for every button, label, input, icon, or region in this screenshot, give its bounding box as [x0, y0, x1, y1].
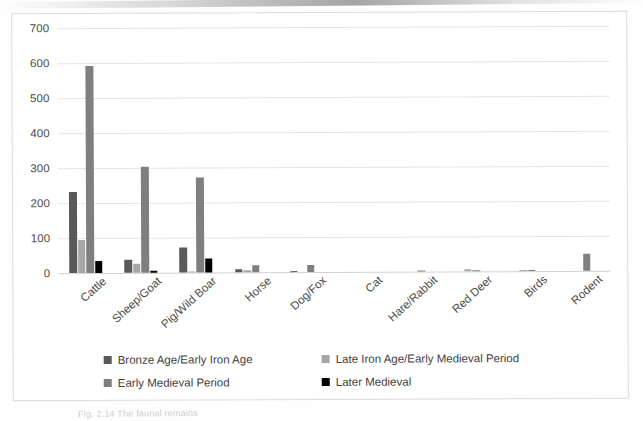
bar	[473, 270, 481, 271]
y-tick-label-100: 100	[31, 232, 51, 244]
bar	[95, 261, 103, 273]
x-axis-label-text: Red Deer	[450, 273, 495, 315]
bar	[69, 192, 77, 273]
bar	[188, 271, 196, 272]
bar	[307, 265, 315, 272]
bar	[235, 269, 243, 273]
bar	[290, 271, 298, 272]
y-tick-label-500: 500	[30, 92, 50, 104]
scan-edge-shadow	[0, 0, 643, 9]
y-tick-label-700: 700	[30, 22, 50, 34]
x-axis-label: Rodent	[569, 273, 605, 307]
chart-legend: Bronze Age/Early Iron AgeLate Iron Age/E…	[104, 352, 564, 400]
bar	[243, 271, 251, 273]
x-axis-label: Cattle	[78, 275, 108, 304]
bar	[196, 177, 204, 272]
x-axis-label-text: Cattle	[78, 275, 108, 304]
legend-item[interactable]: Early Medieval Period	[104, 376, 230, 389]
legend-label: Early Medieval Period	[118, 376, 230, 388]
legend-swatch-icon	[322, 355, 330, 363]
bar-group	[278, 27, 334, 272]
x-axis-label: Dog/Fox	[289, 274, 329, 312]
y-tick-label-200: 200	[30, 197, 50, 209]
bar-group	[444, 26, 500, 271]
bar-group	[168, 27, 224, 272]
y-tick-label-0: 0	[44, 267, 51, 279]
x-axis-label: Cat	[363, 274, 384, 295]
bar	[85, 66, 93, 273]
x-axis-label-text: Pig/Wild Boar	[159, 274, 219, 330]
x-axis-label: Horse	[243, 274, 274, 304]
bars-layer	[57, 26, 610, 273]
bar-group	[499, 26, 555, 271]
legend-swatch-icon	[322, 378, 330, 386]
scanned-page: 0100200300400500600700 CattleSheep/GoatP…	[0, 0, 643, 421]
legend-label: Bronze Age/Early Iron Age	[118, 353, 253, 366]
bar	[519, 270, 527, 271]
y-axis: 0100200300400500600700	[12, 28, 56, 273]
bar	[125, 260, 133, 273]
x-axis-label: Hare/Rabbit	[386, 274, 439, 324]
bar-group	[554, 26, 610, 271]
legend-item[interactable]: Bronze Age/Early Iron Age	[104, 353, 253, 366]
x-axis-label-text: Horse	[243, 274, 274, 304]
legend-label: Late Iron Age/Early Medieval Period	[336, 352, 520, 365]
legend-item[interactable]: Later Medieval	[322, 376, 411, 388]
plot-area	[57, 26, 610, 273]
x-axis-label-text: Cat	[363, 274, 384, 295]
legend-swatch-icon	[104, 356, 112, 364]
figure-caption: Fig. 2.14 The faunal remains	[78, 408, 198, 419]
bar	[205, 258, 213, 272]
x-axis-label-text: Sheep/Goat	[110, 275, 164, 325]
y-tick-label-300: 300	[30, 162, 50, 174]
bar	[133, 263, 141, 272]
x-axis: CattleSheep/GoatPig/Wild BoarHorseDog/Fo…	[58, 273, 610, 337]
legend-swatch-icon	[104, 379, 112, 387]
x-axis-label-text: Rodent	[569, 273, 605, 307]
legend-item[interactable]: Late Iron Age/Early Medieval Period	[322, 352, 520, 365]
x-axis-label: Red Deer	[450, 273, 495, 315]
bar	[418, 270, 426, 271]
bar	[180, 247, 188, 272]
bar	[464, 269, 472, 271]
bar	[528, 270, 536, 271]
bar	[583, 253, 591, 271]
legend-label: Later Medieval	[336, 376, 411, 388]
bar	[78, 240, 86, 273]
bar-group	[112, 28, 168, 273]
x-axis-label: Pig/Wild Boar	[159, 274, 219, 330]
x-axis-label-text: Birds	[522, 273, 549, 300]
x-axis-label-text: Hare/Rabbit	[386, 274, 439, 324]
bar	[252, 265, 260, 272]
bar	[141, 167, 149, 273]
y-tick-label-400: 400	[30, 127, 50, 139]
bar-group	[57, 28, 113, 273]
x-axis-label: Birds	[522, 273, 549, 300]
bar-group	[388, 26, 444, 271]
bar-group	[333, 27, 389, 272]
y-tick-label-600: 600	[30, 57, 50, 69]
x-axis-label-text: Dog/Fox	[289, 274, 329, 312]
chart-frame: 0100200300400500600700 CattleSheep/GoatP…	[11, 11, 629, 402]
bar	[150, 270, 158, 272]
bar-group	[223, 27, 279, 272]
x-axis-label: Sheep/Goat	[110, 275, 164, 325]
